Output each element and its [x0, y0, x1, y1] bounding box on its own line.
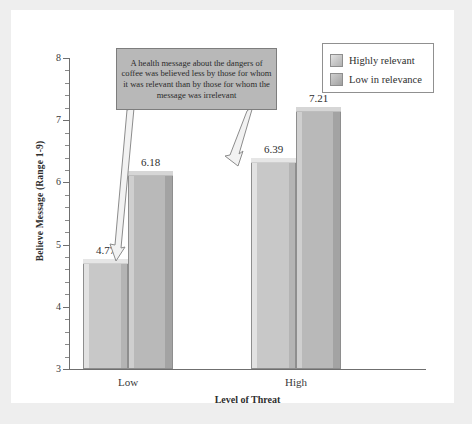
x-axis-title: Level of Threat — [69, 394, 426, 405]
y-tick-minor — [65, 257, 69, 258]
y-tick-major — [63, 182, 69, 183]
y-tick-minor — [65, 232, 69, 233]
y-tick-major — [63, 245, 69, 246]
bar-top-bevel — [128, 171, 173, 176]
x-axis-line — [69, 369, 426, 370]
legend: Highly relevant Low in relevance — [322, 43, 434, 93]
y-tick-minor — [65, 158, 69, 159]
y-tick-major — [63, 307, 69, 308]
y-tick-major — [63, 58, 69, 59]
legend-label-highly-relevant: Highly relevant — [349, 55, 415, 66]
x-tick-label-low: Low — [83, 376, 173, 388]
y-tick-minor — [65, 282, 69, 283]
y-axis-tick-labels: 345678 — [33, 10, 61, 403]
y-tick-minor — [65, 95, 69, 96]
y-tick-minor — [65, 170, 69, 171]
legend-entry-low-in-relevance: Low in relevance — [330, 71, 422, 87]
bar-face — [128, 171, 173, 369]
bar-face — [83, 259, 128, 369]
y-tick-minor — [65, 70, 69, 71]
y-tick-minor — [65, 269, 69, 270]
y-tick-minor — [65, 294, 69, 295]
y-tick-minor — [65, 195, 69, 196]
annotation-text: A health message about the dangers of co… — [121, 58, 272, 100]
bar-high-low-in-relevance — [296, 107, 341, 369]
y-tick-minor — [65, 344, 69, 345]
bar-low-highly-relevant — [83, 259, 128, 369]
figure-canvas: Believe Message (Range 1-9) 345678 4.776… — [0, 0, 472, 424]
bar-value-label: 4.77 — [76, 244, 136, 256]
plot-area: Believe Message (Range 1-9) 345678 4.776… — [11, 10, 454, 403]
plot-card: Believe Message (Range 1-9) 345678 4.776… — [11, 10, 454, 403]
y-tick-minor — [65, 220, 69, 221]
x-tick-label-high: High — [251, 376, 341, 388]
bar-top-bevel — [296, 107, 341, 112]
bar-top-bevel — [83, 259, 128, 264]
bar-low-low-in-relevance — [128, 171, 173, 369]
y-tick-label: 8 — [39, 53, 61, 63]
arrow-to-high-highly-relevant-icon — [225, 106, 253, 166]
y-tick-minor — [65, 133, 69, 134]
bar-face — [296, 107, 341, 369]
y-tick-minor — [65, 319, 69, 320]
y-tick-label: 6 — [39, 177, 61, 187]
bar-value-label: 7.21 — [289, 92, 349, 104]
y-tick-minor — [65, 145, 69, 146]
bar-high-highly-relevant — [251, 158, 296, 369]
y-tick-major — [63, 120, 69, 121]
y-tick-label: 4 — [39, 302, 61, 312]
legend-swatch-icon — [330, 54, 343, 67]
y-tick-minor — [65, 83, 69, 84]
y-axis-line — [69, 58, 70, 370]
y-tick-minor — [65, 357, 69, 358]
annotation-callout: A health message about the dangers of co… — [116, 48, 277, 110]
y-tick-label: 5 — [39, 240, 61, 250]
bar-value-label: 6.39 — [244, 143, 304, 155]
legend-label-low-in-relevance: Low in relevance — [349, 74, 422, 85]
legend-entry-highly-relevant: Highly relevant — [330, 52, 415, 68]
bar-value-label: 6.18 — [121, 156, 181, 168]
y-tick-minor — [65, 332, 69, 333]
legend-swatch-icon — [330, 73, 343, 86]
y-tick-minor — [65, 108, 69, 109]
y-tick-minor — [65, 207, 69, 208]
bar-top-bevel — [251, 158, 296, 163]
bar-face — [251, 158, 296, 369]
y-tick-label: 7 — [39, 115, 61, 125]
y-tick-label: 3 — [39, 364, 61, 374]
